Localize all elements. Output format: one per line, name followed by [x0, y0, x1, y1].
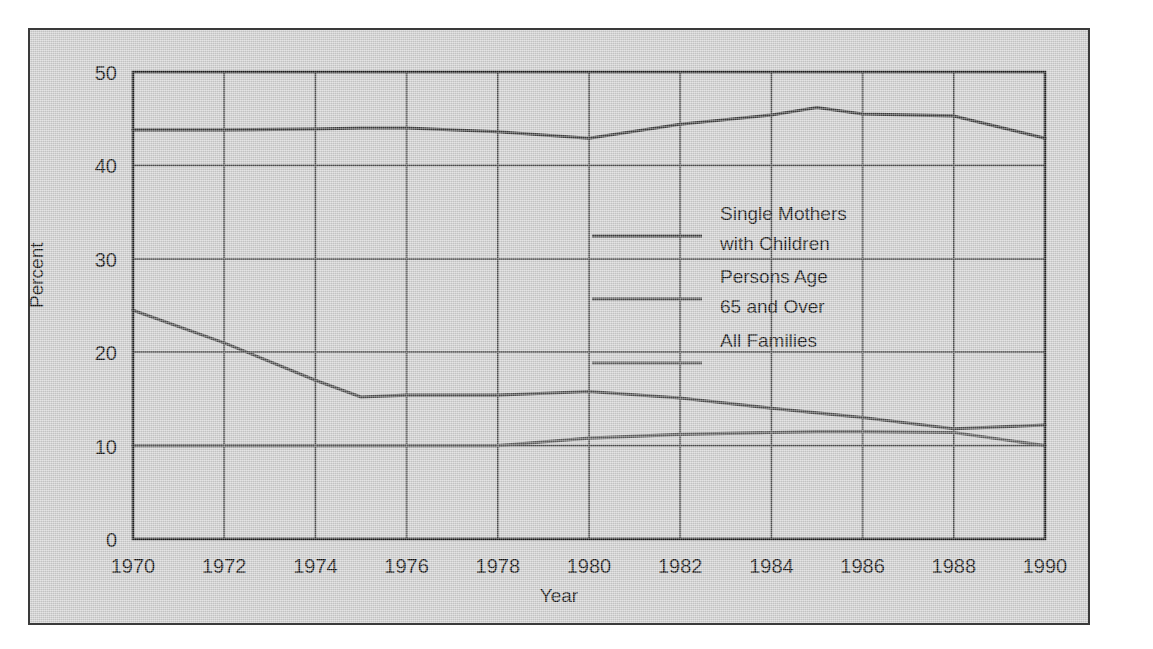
x-tick-label: 1986	[840, 555, 885, 577]
legend-label-0: with Children	[719, 233, 830, 254]
y-tick-label: 0	[106, 529, 117, 551]
y-tick-label: 40	[95, 155, 117, 177]
x-tick-label: 1974	[293, 555, 338, 577]
line-chart-plot: 50403020100 1970197219741976197819801982…	[30, 30, 1092, 627]
y-tick-label: 20	[95, 342, 117, 364]
x-tick-label: 1980	[567, 555, 612, 577]
legend-label-2: All Families	[720, 330, 817, 351]
x-tick-label: 1984	[749, 555, 794, 577]
x-tick-label: 1976	[384, 555, 429, 577]
x-tick-label: 1970	[111, 555, 156, 577]
chart-legend: Single Motherswith ChildrenPersons Age65…	[592, 203, 847, 363]
y-tick-label: 10	[95, 436, 117, 458]
legend-label-1: Persons Age	[720, 266, 828, 287]
chart-figure-panel: Percent Year 50403020100 197019721974197…	[28, 28, 1090, 625]
legend-label-0: Single Mothers	[720, 203, 847, 224]
x-tick-label: 1982	[658, 555, 703, 577]
y-tick-labels: 50403020100	[95, 62, 117, 551]
y-tick-label: 50	[95, 62, 117, 84]
x-tick-label: 1972	[202, 555, 247, 577]
x-tick-label: 1990	[1023, 555, 1068, 577]
x-tick-label: 1978	[476, 555, 521, 577]
y-tick-label: 30	[95, 249, 117, 271]
x-tick-label: 1988	[932, 555, 977, 577]
grid-lines	[133, 72, 1045, 539]
legend-label-1: 65 and Over	[720, 296, 825, 317]
x-tick-labels: 1970197219741976197819801982198419861988…	[111, 555, 1068, 577]
